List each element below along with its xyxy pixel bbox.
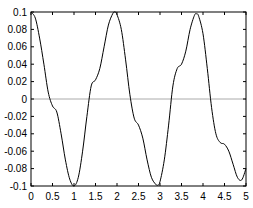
y-tick-label: -0.08 [4, 163, 27, 174]
y-tick-label: -0.04 [4, 128, 27, 139]
y-tick-label: -0.02 [4, 111, 27, 122]
x-tick-label: 2 [114, 191, 120, 202]
x-tick-label: 2.5 [132, 191, 146, 202]
x-tick-label: 0.5 [46, 191, 60, 202]
y-tick-label: -0.06 [4, 146, 27, 157]
x-tick-label: 3.5 [175, 191, 189, 202]
line-chart: 00.511.522.533.544.550.10.080.060.040.02… [0, 0, 253, 208]
x-tick-label: 1.5 [89, 191, 103, 202]
x-tick-label: 3 [157, 191, 163, 202]
y-tick-label: 0.1 [13, 7, 27, 18]
x-tick-label: 0 [28, 191, 34, 202]
y-tick-label: 0 [21, 94, 27, 105]
x-tick-label: 4.5 [218, 191, 232, 202]
y-tick-label: 0.06 [8, 41, 28, 52]
y-tick-label: -0.1 [10, 181, 28, 192]
x-tick-label: 4 [200, 191, 206, 202]
x-tick-label: 1 [71, 191, 77, 202]
y-tick-label: 0.04 [8, 59, 28, 70]
y-tick-label: 0.08 [8, 24, 28, 35]
x-tick-label: 5 [243, 191, 249, 202]
y-tick-label: 0.02 [8, 76, 28, 87]
